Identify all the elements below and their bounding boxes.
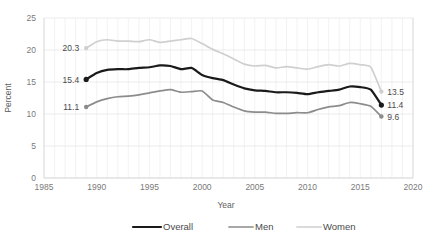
start-value-label-men: 11.1 [63, 102, 79, 112]
y-tick-label: 0 [31, 173, 36, 183]
x-tick-label: 1995 [140, 182, 159, 192]
x-tick-label: 2000 [193, 182, 212, 192]
start-value-label-women: 20.3 [63, 43, 80, 53]
end-marker-women [379, 89, 383, 93]
end-value-label-overall: 11.4 [387, 100, 403, 110]
end-marker-overall [379, 102, 384, 107]
y-tick-label: 15 [27, 77, 37, 87]
legend-label-men: Men [255, 221, 273, 232]
end-value-label-women: 13.5 [387, 87, 404, 97]
x-axis-tick-labels: 19851990199520002005201020152020 [35, 182, 423, 192]
start-marker-men [84, 105, 88, 109]
y-axis-title: Percent [3, 83, 13, 113]
end-marker-men [379, 114, 383, 118]
minor-gridlines [44, 18, 413, 178]
x-axis-title: Year [217, 200, 234, 210]
chart-canvas: 19851990199520002005201020152020 0510152… [0, 0, 434, 242]
start-value-label-overall: 15.4 [63, 75, 80, 85]
line-chart: 19851990199520002005201020152020 0510152… [0, 0, 434, 242]
x-tick-label: 2020 [404, 182, 423, 192]
horizontal-gridlines [44, 18, 413, 178]
end-value-label-men: 9.6 [387, 112, 399, 122]
legend-label-women: Women [323, 221, 356, 232]
y-tick-label: 5 [31, 141, 36, 151]
x-tick-label: 2005 [245, 182, 264, 192]
start-marker-women [84, 46, 88, 50]
legend-label-overall: Overall [163, 221, 193, 232]
y-axis-tick-labels: 0510152025 [27, 13, 37, 183]
y-tick-label: 10 [27, 109, 37, 119]
chart-legend: OverallMenWomen [133, 221, 356, 232]
y-tick-label: 20 [27, 45, 37, 55]
y-tick-label: 25 [27, 13, 37, 23]
x-tick-label: 2015 [351, 182, 370, 192]
x-tick-label: 1985 [35, 182, 54, 192]
x-tick-label: 2010 [298, 182, 317, 192]
x-tick-label: 1990 [87, 182, 106, 192]
plot-area-frame [44, 18, 413, 178]
start-marker-overall [84, 77, 89, 82]
